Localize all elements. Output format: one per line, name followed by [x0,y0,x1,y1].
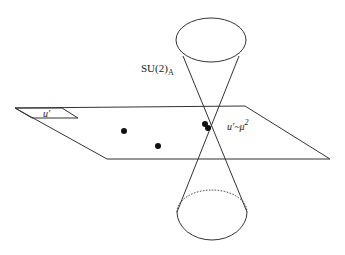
cone-bottom-ellipse-front [177,212,247,240]
su2-label: SU(2)A [141,62,174,77]
plane-parallelogram [15,106,330,159]
u-prime-label: u' [43,108,51,119]
u-prime-mu-label: u'~μ2 [227,118,249,132]
singular-point [155,143,161,149]
diagram-canvas: SU(2)A u' u'~μ2 [0,0,345,255]
cone-line-left [183,56,247,212]
cone-top-ellipse [176,18,246,62]
singular-point [121,128,127,134]
singular-point [205,125,211,131]
cone-line-right [177,56,239,212]
cone-bottom-ellipse-back [177,190,247,212]
